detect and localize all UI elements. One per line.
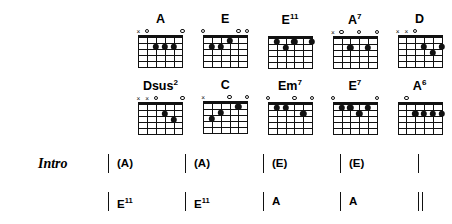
fretboard-grid (268, 36, 312, 69)
barline (185, 154, 186, 173)
string-line (182, 102, 183, 135)
fret-line (398, 55, 442, 56)
chord-name-base: Dsus (143, 79, 174, 93)
muted-string-icon: × (394, 28, 401, 35)
measure-chord-symbol: (E) (272, 156, 287, 170)
fret-line (333, 134, 377, 135)
fretboard-grid (203, 35, 247, 68)
measure-chord-symbol: E11 (194, 194, 210, 211)
chord-diagram-row-1: A×EE11A7×D×× (128, 13, 452, 69)
fret-line (203, 67, 247, 68)
string-line (442, 102, 443, 135)
chord-diagram-a7: A7× (322, 13, 387, 69)
fret-line (333, 56, 377, 57)
measure-chord-superscript: 11 (202, 196, 210, 205)
nut-line (138, 102, 182, 105)
measure-chord-base: (E) (272, 157, 287, 169)
measure-chord-symbol: E11 (117, 194, 133, 211)
fret-line (138, 134, 182, 135)
chord-name-base: E (282, 13, 290, 27)
fret-line (138, 110, 182, 111)
string-line (377, 36, 378, 69)
string-line (415, 102, 416, 135)
fret-line (203, 61, 247, 62)
chord-diagram-em7: Em7 (258, 79, 323, 135)
fret-line (268, 122, 312, 123)
fret-line (398, 49, 442, 50)
chord-name: C (221, 79, 230, 92)
fret-line (333, 68, 377, 69)
fret-line (268, 116, 312, 117)
chord-name-superscript: 7 (357, 12, 361, 21)
fret-line (333, 44, 377, 45)
fret-line (268, 68, 312, 69)
string-line (230, 101, 231, 134)
string-line (359, 102, 360, 135)
chord-name: Em7 (278, 79, 302, 93)
fret-line (268, 56, 312, 57)
string-line (165, 35, 166, 68)
fret-line (138, 61, 182, 62)
fretboard-grid (138, 102, 182, 135)
string-line (342, 36, 343, 69)
open-string-icon (375, 30, 379, 34)
fretboard-grid (268, 102, 312, 135)
chord-diagram-e7: E7 (322, 79, 387, 135)
chord-name: E (221, 13, 229, 26)
chord-diagram-e: E (193, 13, 258, 68)
chord-name: A7 (348, 13, 361, 27)
string-line (424, 35, 425, 68)
fret-line (203, 127, 247, 128)
open-string-icon (292, 96, 296, 100)
chord-diagram-d: D×× (387, 13, 452, 68)
string-line (406, 35, 407, 68)
string-line (424, 102, 425, 135)
open-string-icon (236, 29, 240, 33)
chord-name-base: Em (278, 79, 297, 93)
fret-line (333, 116, 377, 117)
string-line (221, 35, 222, 68)
chord-name-superscript: 2 (173, 78, 177, 87)
finger-dot (309, 39, 315, 45)
nut-line (398, 35, 442, 38)
string-line (156, 102, 157, 135)
chord-name-base: A (156, 12, 165, 26)
double-barline (418, 192, 419, 211)
fret-line (398, 134, 442, 135)
open-string-icon (375, 96, 379, 100)
string-line (398, 102, 399, 135)
chord-name: A6 (413, 79, 426, 93)
string-line (398, 35, 399, 68)
string-line (268, 102, 269, 135)
open-string-icon (413, 29, 417, 33)
chord-name-base: C (221, 78, 230, 92)
string-line (138, 35, 139, 68)
fret-line (203, 55, 247, 56)
muted-string-icon: × (200, 94, 207, 101)
fret-line (138, 116, 182, 117)
string-line (286, 36, 287, 69)
barline (340, 192, 341, 211)
measure-chord-symbol: (E) (349, 156, 364, 170)
open-string-icon (245, 29, 249, 33)
chord-name-superscript: 7 (297, 78, 301, 87)
fret-line (268, 50, 312, 51)
chord-name: E7 (348, 79, 361, 93)
barline (108, 154, 109, 173)
chord-name-base: E (221, 12, 229, 26)
finger-dot (438, 44, 444, 50)
fret-line (138, 67, 182, 68)
string-line (359, 36, 360, 69)
fretboard-grid (333, 102, 377, 135)
chord-diagram-e11: E11 (258, 13, 323, 69)
muted-string-icon: × (403, 28, 410, 35)
fret-line (268, 62, 312, 63)
muted-string-icon: × (329, 29, 336, 36)
progression-section: Intro (A)(A)(E)(E) E11E11AA (0, 148, 452, 224)
measure-chord-symbol: A (349, 194, 357, 208)
fret-line (333, 128, 377, 129)
measure-chord-base: A (349, 195, 357, 207)
chord-name: D (415, 13, 424, 26)
measure-chord-base: E (194, 198, 202, 210)
string-line (312, 102, 313, 135)
